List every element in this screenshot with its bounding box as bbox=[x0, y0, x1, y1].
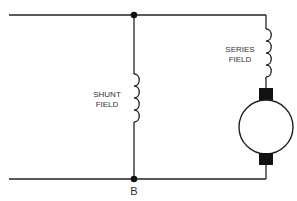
node-b-label: B bbox=[130, 185, 137, 197]
series-field-label-line1: SERIES bbox=[225, 45, 254, 54]
motor-armature-icon bbox=[239, 88, 293, 179]
node-b-dot bbox=[131, 176, 138, 183]
series-field-branch bbox=[266, 15, 271, 89]
shunt-field-label-line2: FIELD bbox=[96, 100, 119, 109]
shunt-field-label-line1: SHUNT bbox=[93, 90, 121, 99]
top-brush-icon bbox=[259, 88, 273, 100]
circuit-diagram: SHUNT FIELD SERIES FIELD B bbox=[0, 0, 297, 201]
series-field-label-line2: FIELD bbox=[229, 55, 252, 64]
top-junction-dot bbox=[131, 12, 138, 19]
armature-circle bbox=[239, 100, 293, 154]
schematic-svg: SHUNT FIELD SERIES FIELD B bbox=[0, 0, 297, 201]
bottom-brush-icon bbox=[259, 153, 273, 165]
shunt-field-branch bbox=[134, 15, 139, 179]
shunt-field-coil-icon bbox=[134, 74, 139, 122]
series-field-coil-icon bbox=[266, 29, 271, 77]
